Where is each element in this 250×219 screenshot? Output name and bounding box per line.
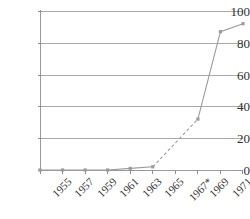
series-line [0,0,250,219]
data-point-marker [151,165,154,168]
line-chart: 100 80 60 40 20 0 1955 1957 1959 1961 19… [0,0,250,219]
data-point-marker [129,167,132,170]
data-point-marker [219,30,222,33]
data-point-marker [38,168,41,171]
data-point-marker [106,168,109,171]
series-segment-dashed [153,119,198,167]
series-segment-solid [198,24,243,119]
series-segment-solid [40,167,153,170]
data-point-marker [196,118,199,121]
data-point-marker [241,22,244,25]
data-point-marker [84,168,87,171]
data-point-marker [61,168,64,171]
